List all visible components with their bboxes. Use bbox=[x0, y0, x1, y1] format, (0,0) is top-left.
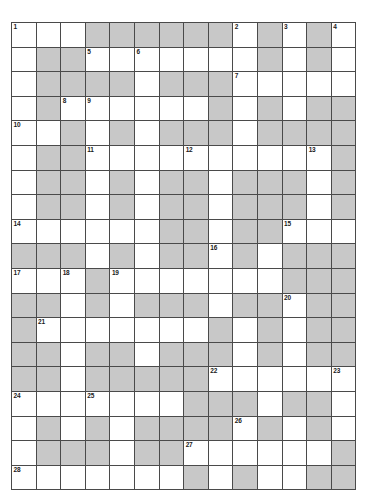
crossword-cell-open[interactable]: 6 bbox=[134, 47, 159, 72]
crossword-cell-open[interactable] bbox=[12, 195, 37, 220]
crossword-cell-open[interactable] bbox=[110, 465, 135, 490]
crossword-cell-open[interactable] bbox=[282, 416, 307, 441]
crossword-cell-open[interactable]: 27 bbox=[184, 441, 209, 466]
crossword-cell-open[interactable] bbox=[85, 244, 110, 269]
crossword-cell-open[interactable] bbox=[61, 465, 86, 490]
crossword-cell-open[interactable] bbox=[12, 96, 37, 121]
crossword-cell-open[interactable]: 21 bbox=[36, 318, 61, 343]
crossword-cell-open[interactable] bbox=[134, 268, 159, 293]
crossword-cell-open[interactable] bbox=[282, 145, 307, 170]
crossword-cell-open[interactable] bbox=[110, 96, 135, 121]
crossword-cell-open[interactable] bbox=[282, 318, 307, 343]
crossword-cell-open[interactable] bbox=[110, 441, 135, 466]
crossword-cell-open[interactable] bbox=[257, 244, 282, 269]
crossword-cell-open[interactable]: 20 bbox=[282, 293, 307, 318]
crossword-cell-open[interactable]: 4 bbox=[331, 23, 356, 48]
crossword-cell-open[interactable] bbox=[134, 244, 159, 269]
crossword-cell-open[interactable] bbox=[208, 170, 233, 195]
crossword-cell-open[interactable]: 1 bbox=[12, 23, 37, 48]
crossword-cell-open[interactable] bbox=[36, 391, 61, 416]
crossword-cell-open[interactable] bbox=[233, 145, 258, 170]
crossword-cell-open[interactable] bbox=[12, 47, 37, 72]
crossword-cell-open[interactable]: 22 bbox=[208, 367, 233, 392]
crossword-cell-open[interactable] bbox=[331, 219, 356, 244]
crossword-cell-open[interactable]: 9 bbox=[85, 96, 110, 121]
crossword-cell-open[interactable] bbox=[307, 72, 332, 97]
crossword-cell-open[interactable] bbox=[61, 416, 86, 441]
crossword-cell-open[interactable] bbox=[85, 170, 110, 195]
crossword-cell-open[interactable] bbox=[134, 72, 159, 97]
crossword-cell-open[interactable] bbox=[61, 293, 86, 318]
crossword-cell-open[interactable] bbox=[282, 465, 307, 490]
crossword-cell-open[interactable] bbox=[134, 342, 159, 367]
crossword-cell-open[interactable] bbox=[85, 318, 110, 343]
crossword-cell-open[interactable] bbox=[282, 367, 307, 392]
crossword-cell-open[interactable] bbox=[36, 121, 61, 146]
crossword-cell-open[interactable] bbox=[184, 268, 209, 293]
crossword-grid[interactable]: 1234567891011121314151617181920212223242… bbox=[11, 22, 356, 490]
crossword-cell-open[interactable]: 10 bbox=[12, 121, 37, 146]
crossword-cell-open[interactable]: 12 bbox=[184, 145, 209, 170]
crossword-cell-open[interactable] bbox=[257, 465, 282, 490]
crossword-cell-open[interactable]: 26 bbox=[233, 416, 258, 441]
crossword-cell-open[interactable] bbox=[110, 391, 135, 416]
crossword-cell-open[interactable] bbox=[134, 195, 159, 220]
crossword-cell-open[interactable] bbox=[12, 441, 37, 466]
crossword-cell-open[interactable]: 5 bbox=[85, 47, 110, 72]
crossword-cell-open[interactable] bbox=[159, 96, 184, 121]
crossword-cell-open[interactable]: 18 bbox=[61, 268, 86, 293]
crossword-cell-open[interactable] bbox=[208, 47, 233, 72]
crossword-cell-open[interactable] bbox=[257, 367, 282, 392]
crossword-cell-open[interactable] bbox=[282, 72, 307, 97]
crossword-cell-open[interactable]: 13 bbox=[307, 145, 332, 170]
crossword-cell-open[interactable] bbox=[134, 465, 159, 490]
crossword-cell-open[interactable] bbox=[331, 47, 356, 72]
crossword-cell-open[interactable] bbox=[159, 47, 184, 72]
crossword-cell-open[interactable] bbox=[159, 268, 184, 293]
crossword-cell-open[interactable] bbox=[36, 268, 61, 293]
crossword-cell-open[interactable] bbox=[307, 219, 332, 244]
crossword-cell-open[interactable]: 7 bbox=[233, 72, 258, 97]
crossword-cell-open[interactable] bbox=[134, 318, 159, 343]
crossword-cell-open[interactable]: 15 bbox=[282, 219, 307, 244]
crossword-cell-open[interactable] bbox=[331, 416, 356, 441]
crossword-cell-open[interactable] bbox=[282, 96, 307, 121]
crossword-cell-open[interactable] bbox=[257, 268, 282, 293]
crossword-cell-open[interactable] bbox=[331, 391, 356, 416]
crossword-cell-open[interactable] bbox=[61, 219, 86, 244]
crossword-cell-open[interactable] bbox=[208, 465, 233, 490]
crossword-cell-open[interactable]: 3 bbox=[282, 23, 307, 48]
crossword-cell-open[interactable] bbox=[257, 145, 282, 170]
crossword-cell-open[interactable] bbox=[184, 96, 209, 121]
crossword-cell-open[interactable] bbox=[85, 465, 110, 490]
crossword-cell-open[interactable] bbox=[331, 72, 356, 97]
crossword-cell-open[interactable] bbox=[233, 268, 258, 293]
crossword-cell-open[interactable] bbox=[110, 47, 135, 72]
crossword-cell-open[interactable] bbox=[12, 416, 37, 441]
crossword-cell-open[interactable] bbox=[110, 145, 135, 170]
crossword-cell-open[interactable]: 17 bbox=[12, 268, 37, 293]
crossword-cell-open[interactable] bbox=[184, 47, 209, 72]
crossword-cell-open[interactable]: 25 bbox=[85, 391, 110, 416]
crossword-cell-open[interactable] bbox=[159, 318, 184, 343]
crossword-cell-open[interactable] bbox=[61, 342, 86, 367]
crossword-cell-open[interactable] bbox=[233, 96, 258, 121]
crossword-cell-open[interactable] bbox=[36, 23, 61, 48]
crossword-cell-open[interactable] bbox=[134, 145, 159, 170]
crossword-cell-open[interactable]: 8 bbox=[61, 96, 86, 121]
crossword-cell-open[interactable] bbox=[208, 219, 233, 244]
crossword-cell-open[interactable] bbox=[134, 391, 159, 416]
crossword-cell-open[interactable] bbox=[159, 391, 184, 416]
crossword-cell-open[interactable]: 24 bbox=[12, 391, 37, 416]
crossword-cell-open[interactable] bbox=[208, 293, 233, 318]
crossword-cell-open[interactable] bbox=[282, 441, 307, 466]
crossword-cell-open[interactable] bbox=[61, 318, 86, 343]
crossword-cell-open[interactable] bbox=[233, 367, 258, 392]
crossword-cell-open[interactable] bbox=[85, 219, 110, 244]
crossword-cell-open[interactable] bbox=[159, 145, 184, 170]
crossword-cell-open[interactable] bbox=[12, 72, 37, 97]
crossword-cell-open[interactable] bbox=[61, 367, 86, 392]
crossword-cell-open[interactable] bbox=[36, 219, 61, 244]
crossword-cell-open[interactable] bbox=[307, 367, 332, 392]
crossword-cell-open[interactable] bbox=[110, 219, 135, 244]
